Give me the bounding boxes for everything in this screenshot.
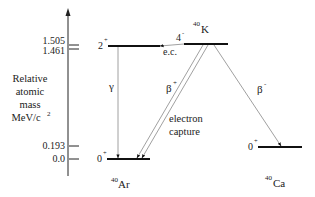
k-mass-number: 40	[193, 20, 201, 28]
beta-plus-transition	[137, 45, 203, 158]
k-ground-spin: 4	[176, 32, 181, 43]
tick-label-0193: 0.193	[43, 140, 66, 151]
electron-capture-label-line2: capture	[169, 126, 200, 137]
ec-label: e.c.	[163, 46, 177, 57]
ca-symbol: Ca	[273, 177, 285, 189]
beta-plus-sign: +	[173, 79, 177, 87]
beta-minus-sign: -	[264, 80, 267, 88]
beta-minus-label: β	[257, 83, 263, 95]
tick-label-1461: 1.461	[43, 45, 66, 56]
axis-label-line4: MeV/c	[11, 112, 40, 123]
electron-capture-transition	[142, 45, 208, 158]
ca-mass-number: 40	[265, 174, 273, 182]
k-symbol: K	[201, 23, 209, 35]
beta-minus-transition	[214, 45, 281, 146]
electron-capture-label-line1: electron	[169, 113, 204, 124]
axis-label-line3: mass	[20, 99, 41, 110]
decay-scheme-diagram: 1.505 1.461 0.193 0.0 Relative atomic ma…	[0, 0, 315, 197]
axis-label-line1: Relative	[13, 73, 48, 84]
beta-plus-label: β	[166, 82, 172, 94]
axis-label-superscript: 2	[47, 110, 51, 118]
ar-ground-parity: +	[103, 149, 107, 156]
ca-ground-spin: 0	[248, 141, 253, 152]
ar-symbol: Ar	[118, 178, 130, 190]
ca-ground-parity: +	[254, 137, 258, 144]
axis-label-line2: atomic	[16, 86, 45, 97]
mass-axis	[66, 8, 80, 176]
gamma-label: γ	[108, 80, 114, 92]
ar-excited-parity: +	[104, 36, 108, 43]
tick-label-00: 0.0	[53, 153, 66, 164]
ar-excited-spin: 2	[98, 40, 103, 51]
k-ground-parity: -	[182, 29, 184, 36]
ar-ground-spin: 0	[97, 153, 102, 164]
axis-arrow-icon	[66, 8, 71, 16]
